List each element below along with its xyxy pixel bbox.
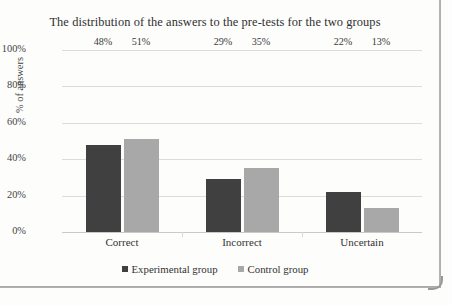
bar: 51% [124,139,159,232]
bar: 35% [244,168,279,232]
y-axis-tick-label: 80% [0,79,26,90]
bar: 29% [206,179,241,232]
chart-title: The distribution of the answers to the p… [0,15,430,30]
bar-series-container: 48%51%29%35%22%13% [62,50,422,232]
x-axis-category-label: Incorrect [182,236,302,248]
legend-swatch-icon [122,266,128,272]
bar-column: 13% [364,50,399,232]
bar-group: 22%13% [302,50,422,232]
bar-column: 51% [124,50,159,232]
y-axis-tick-label: 60% [0,116,26,127]
bar-value-label: 22% [334,36,353,47]
plot-area: 100%80%60%40%20%0% 48%51%29%35%22%13% [62,50,422,232]
bar-value-label: 29% [214,36,233,47]
chart-legend: Experimental groupControl group [0,263,430,275]
y-axis-tick-label: 0% [0,225,26,236]
legend-swatch-icon [238,266,244,272]
bar-value-label: 35% [252,36,271,47]
bar: 22% [326,192,361,232]
legend-item[interactable]: Experimental group [122,263,218,275]
legend-label: Experimental group [132,263,218,275]
bar-column: 22% [326,50,361,232]
y-axis-tick-label: 100% [0,43,26,54]
legend-item[interactable]: Control group [238,263,309,275]
gridline [62,232,422,233]
y-axis-tick-label: 40% [0,152,26,163]
bar-value-label: 13% [372,36,391,47]
x-axis-category-label: Uncertain [302,236,422,248]
bar-column: 29% [206,50,241,232]
x-axis-category-label: Correct [62,236,182,248]
bar: 13% [364,208,399,232]
bar-value-label: 48% [94,36,113,47]
y-axis-tick-label: 20% [0,189,26,200]
bar-column: 48% [86,50,121,232]
bar-group: 48%51% [62,50,182,232]
legend-label: Control group [248,263,309,275]
bar-group: 29%35% [182,50,302,232]
bar-column: 35% [244,50,279,232]
bar-value-label: 51% [132,36,151,47]
chart-figure: The distribution of the answers to the p… [0,0,452,305]
page-frame-bottom-border [0,286,441,288]
page-frame-right-border [439,0,441,288]
bar: 48% [86,145,121,232]
